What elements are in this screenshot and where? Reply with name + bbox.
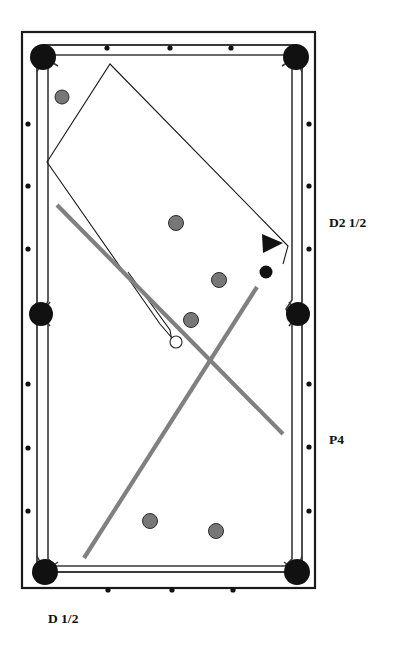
pocket-bottom-left: [32, 559, 58, 585]
table-svg-canvas: D2 1/2 P4 D 1/2: [0, 0, 397, 652]
ball-object-4: [184, 313, 199, 328]
ball-object-1: [55, 90, 69, 104]
ball-object-5: [143, 514, 158, 529]
diamond-right-6: [306, 508, 311, 513]
ball-object-2: [169, 216, 184, 231]
diamond-left-3: [25, 246, 30, 251]
diamond-left-4: [25, 381, 30, 386]
label-d-half: D 1/2: [48, 611, 79, 626]
diamond-top-3: [228, 45, 233, 50]
ball-object-6: [209, 524, 224, 539]
diamond-right-3: [306, 246, 311, 251]
ball-black: [260, 266, 273, 279]
diamond-left-6: [25, 508, 30, 513]
diamond-bottom-3: [230, 587, 235, 592]
diamond-right-5: [306, 444, 311, 449]
pool-table-diagram: D2 1/2 P4 D 1/2: [0, 0, 397, 652]
label-p4: P4: [329, 432, 344, 447]
pocket-bottom-right: [284, 559, 310, 585]
table-outer-frame: [22, 32, 315, 588]
diamond-left-1: [25, 121, 30, 126]
ball-cue: [170, 336, 182, 348]
pocket-side-right: [286, 302, 310, 326]
diamond-bottom-2: [169, 587, 174, 592]
pocket-top-left: [30, 44, 56, 70]
diamond-left-5: [25, 445, 30, 450]
diamond-top-1: [104, 45, 109, 50]
pocket-top-right: [283, 44, 309, 70]
pocket-side-left: [29, 302, 53, 326]
diamond-left-2: [25, 183, 30, 188]
diamond-right-1: [306, 121, 311, 126]
diamond-right-2: [306, 183, 311, 188]
diamond-bottom-1: [105, 587, 110, 592]
diamond-right-4: [306, 381, 311, 386]
label-d2-half: D2 1/2: [329, 215, 366, 230]
diamond-top-2: [167, 45, 172, 50]
ball-object-3: [212, 273, 227, 288]
